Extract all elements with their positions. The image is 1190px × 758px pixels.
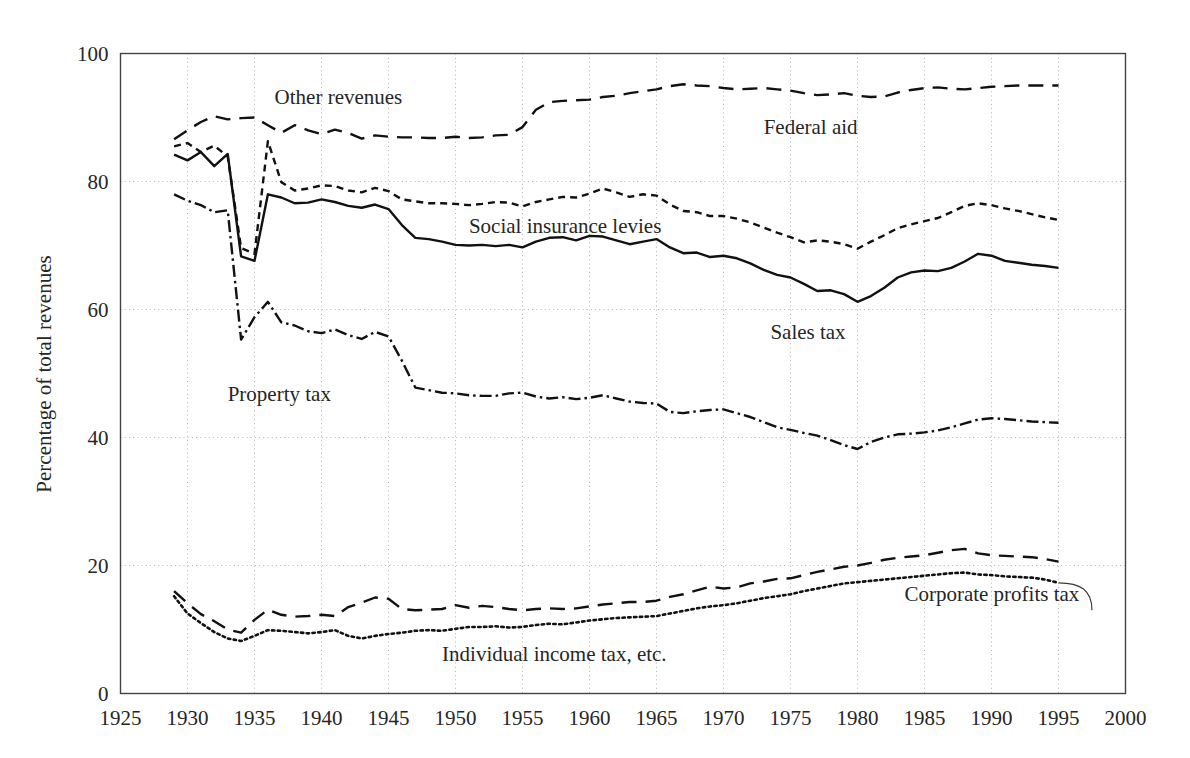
x-tick-1965: 1965 [636, 706, 678, 731]
series-label-other-revenues: Other revenues [275, 85, 403, 110]
y-tick-80: 80 [63, 169, 109, 194]
y-tick-0: 0 [63, 681, 109, 706]
series-label-property-tax: Property tax [228, 381, 331, 406]
x-tick-1950: 1950 [435, 706, 477, 731]
x-tick-1970: 1970 [703, 706, 745, 731]
x-tick-2000: 2000 [1105, 706, 1147, 731]
y-tick-20: 20 [63, 553, 109, 578]
x-tick-1945: 1945 [368, 706, 410, 731]
y-tick-40: 40 [63, 425, 109, 450]
x-tick-1930: 1930 [167, 706, 209, 731]
x-tick-1975: 1975 [770, 706, 812, 731]
series-label-corporate-profits-tax: Corporate profits tax [904, 581, 1079, 606]
x-tick-1960: 1960 [569, 706, 611, 731]
x-tick-1935: 1935 [234, 706, 276, 731]
x-tick-1995: 1995 [1038, 706, 1080, 731]
series-label-social-insurance-levies: Social insurance levies [469, 214, 661, 239]
x-tick-1980: 1980 [837, 706, 879, 731]
series-label-individual-income-tax-etc: Individual income tax, etc. [442, 641, 667, 666]
y-tick-60: 60 [63, 297, 109, 322]
y-axis-title: Percentage of total revenues [32, 255, 57, 492]
series-label-federal-aid: Federal aid [764, 115, 858, 140]
x-tick-1925: 1925 [100, 706, 142, 731]
x-tick-1990: 1990 [971, 706, 1013, 731]
x-tick-1940: 1940 [301, 706, 343, 731]
x-tick-1955: 1955 [502, 706, 544, 731]
series-label-sales-tax: Sales tax [770, 319, 845, 344]
series-paths [174, 84, 1058, 641]
y-tick-100: 100 [63, 41, 109, 66]
revenue-share-line-chart: 1925193019351940194519501955196019651970… [0, 0, 1190, 758]
x-tick-1985: 1985 [904, 706, 946, 731]
